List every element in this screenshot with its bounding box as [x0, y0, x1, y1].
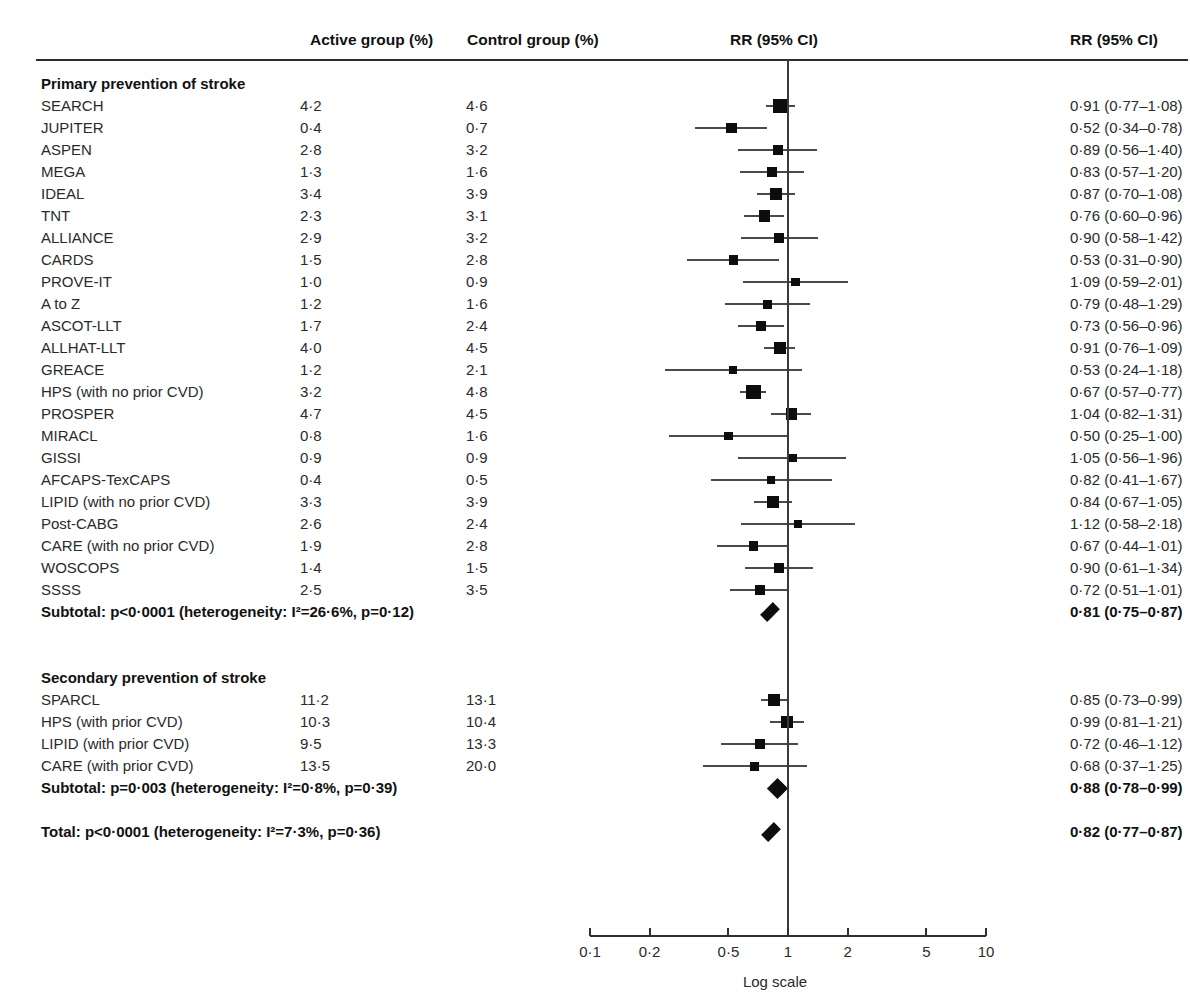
axis-tick-label: 0·1 [579, 943, 601, 960]
rr-value: 0·68 (0·37–1·25) [1070, 755, 1183, 777]
rr-value: 0·72 (0·51–1·01) [1070, 579, 1183, 601]
axis-title: Log scale [540, 973, 1010, 990]
rr-value: 0·87 (0·70–1·08) [1070, 183, 1183, 205]
point-estimate-marker [774, 233, 783, 242]
axis-tick [589, 928, 591, 936]
point-estimate-marker [755, 739, 765, 749]
control-group-value: 0·5 [466, 469, 526, 491]
axis-tick-label: 10 [978, 943, 995, 960]
active-group-value: 4·7 [300, 403, 360, 425]
active-group-value: 1·0 [300, 271, 360, 293]
point-estimate-marker [749, 541, 759, 551]
active-group-value: 1·4 [300, 557, 360, 579]
column-header-active-group: Active group (%) [310, 31, 433, 49]
point-estimate-marker [756, 321, 767, 332]
point-estimate-marker [726, 123, 737, 134]
rr-value: 0·67 (0·57–0·77) [1070, 381, 1183, 403]
control-group-value: 4·5 [466, 337, 526, 359]
point-estimate-marker [773, 145, 782, 154]
summary-label: Subtotal: p<0·0001 (heterogeneity: I²=26… [41, 601, 414, 623]
axis-tick-label: 5 [922, 943, 930, 960]
active-group-value: 2·6 [300, 513, 360, 535]
study-label: ALLHAT-LLT [41, 337, 125, 359]
point-estimate-marker [767, 496, 779, 508]
study-label: CARDS [41, 249, 94, 271]
control-group-value: 0·9 [466, 447, 526, 469]
axis-tick-label: 0·5 [718, 943, 740, 960]
active-group-value: 3·4 [300, 183, 360, 205]
control-group-value: 1·6 [466, 293, 526, 315]
point-estimate-marker [773, 99, 786, 112]
point-estimate-marker [770, 188, 782, 200]
study-label: PROSPER [41, 403, 114, 425]
point-estimate-marker [791, 278, 800, 287]
active-group-value: 2·5 [300, 579, 360, 601]
null-effect-reference-line [787, 59, 789, 935]
rr-value: 0·79 (0·48–1·29) [1070, 293, 1183, 315]
control-group-value: 3·9 [466, 491, 526, 513]
rr-value: 1·12 (0·58–2·18) [1070, 513, 1183, 535]
rr-value: 0·53 (0·24–1·18) [1070, 359, 1183, 381]
rr-value: 0·85 (0·73–0·99) [1070, 689, 1183, 711]
column-header-rr-text: RR (95% CI) [1070, 31, 1158, 49]
active-group-value: 4·0 [300, 337, 360, 359]
point-estimate-marker [746, 385, 761, 400]
point-estimate-marker [794, 520, 802, 528]
rr-value: 1·05 (0·56–1·96) [1070, 447, 1183, 469]
study-label: SSSS [41, 579, 81, 601]
point-estimate-marker [750, 762, 759, 771]
control-group-value: 2·4 [466, 513, 526, 535]
study-label: Post-CABG [41, 513, 119, 535]
study-label: MIRACL [41, 425, 98, 447]
control-group-value: 0·7 [466, 117, 526, 139]
active-group-value: 11·2 [300, 689, 360, 711]
summary-label: Total: p<0·0001 (heterogeneity: I²=7·3%,… [41, 821, 380, 843]
point-estimate-marker [729, 366, 737, 374]
active-group-value: 0·4 [300, 117, 360, 139]
summary-diamond-marker [760, 602, 780, 622]
rr-value: 0·99 (0·81–1·21) [1070, 711, 1183, 733]
study-label: HPS (with no prior CVD) [41, 381, 204, 403]
study-label: IDEAL [41, 183, 84, 205]
active-group-value: 2·8 [300, 139, 360, 161]
point-estimate-marker [768, 694, 780, 706]
summary-rr-value: 0·82 (0·77–0·87) [1070, 821, 1183, 843]
control-group-value: 2·8 [466, 249, 526, 271]
axis-tick [727, 928, 729, 936]
axis-tick-label: 0·2 [639, 943, 661, 960]
study-label: GISSI [41, 447, 81, 469]
active-group-value: 1·7 [300, 315, 360, 337]
rr-value: 1·09 (0·59–2·01) [1070, 271, 1183, 293]
rr-value: 0·67 (0·44–1·01) [1070, 535, 1183, 557]
axis-tick-label: 1 [784, 943, 792, 960]
rr-value: 0·84 (0·67–1·05) [1070, 491, 1183, 513]
point-estimate-marker [767, 167, 777, 177]
control-group-value: 3·5 [466, 579, 526, 601]
control-group-value: 13·3 [466, 733, 526, 755]
forest-plot-panel [540, 59, 1010, 939]
rr-value: 0·52 (0·34–0·78) [1070, 117, 1183, 139]
point-estimate-marker [774, 342, 786, 354]
rr-value: 0·50 (0·25–1·00) [1070, 425, 1183, 447]
active-group-value: 2·3 [300, 205, 360, 227]
active-group-value: 13·5 [300, 755, 360, 777]
active-group-value: 1·5 [300, 249, 360, 271]
active-group-value: 1·9 [300, 535, 360, 557]
axis-tick [847, 928, 849, 936]
forest-plot-figure: Active group (%) Control group (%) RR (9… [0, 0, 1190, 1006]
control-group-value: 0·9 [466, 271, 526, 293]
study-label: CARE (with no prior CVD) [41, 535, 214, 557]
control-group-value: 4·8 [466, 381, 526, 403]
active-group-value: 9·5 [300, 733, 360, 755]
group-label: Primary prevention of stroke [41, 73, 245, 95]
rr-value: 0·76 (0·60–0·96) [1070, 205, 1183, 227]
rr-value: 0·83 (0·57–1·20) [1070, 161, 1183, 183]
study-label: MEGA [41, 161, 85, 183]
point-estimate-marker [724, 432, 732, 440]
study-label: HPS (with prior CVD) [41, 711, 183, 733]
rr-value: 0·91 (0·76–1·09) [1070, 337, 1183, 359]
rr-value: 1·04 (0·82–1·31) [1070, 403, 1183, 425]
rr-value: 0·73 (0·56–0·96) [1070, 315, 1183, 337]
study-label: LIPID (with prior CVD) [41, 733, 189, 755]
study-label: SEARCH [41, 95, 104, 117]
